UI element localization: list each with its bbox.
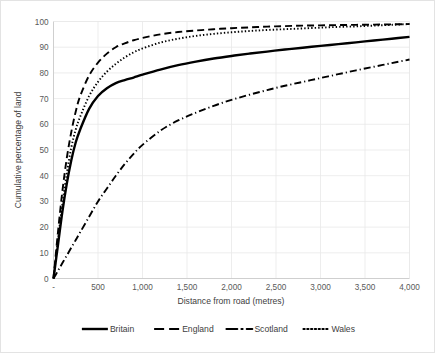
x-axis-tick-label: 2,000 xyxy=(221,283,242,292)
x-axis-tick-label: 3,500 xyxy=(355,283,376,292)
y-axis-tick-label: 30 xyxy=(39,197,49,206)
y-axis-tick-label: 50 xyxy=(39,146,49,155)
x-axis-tick-label: 4,000 xyxy=(399,283,420,292)
x-axis-tick-label: 500 xyxy=(91,283,105,292)
y-axis-tick-label: 60 xyxy=(39,120,49,129)
x-axis-tick-label: - xyxy=(52,283,55,292)
chart-container: 0102030405060708090100 -5001,0001,5002,0… xyxy=(0,0,435,353)
x-axis-title: Distance from road (metres) xyxy=(178,296,285,306)
y-axis-tick-label: 10 xyxy=(39,249,49,258)
legend-label-england: England xyxy=(182,324,214,334)
x-axis-tick-label: 1,000 xyxy=(132,283,153,292)
legend-label-wales: Wales xyxy=(331,324,355,334)
chart-legend: BritainEnglandScotlandWales xyxy=(82,324,355,334)
y-axis-tick-label: 80 xyxy=(39,69,49,78)
y-axis-tick-label: 40 xyxy=(39,172,49,181)
y-axis-tick-label: 20 xyxy=(39,223,49,232)
y-axis-tick-label: 0 xyxy=(44,275,49,284)
x-axis-tick-label: 3,000 xyxy=(310,283,331,292)
y-axis-tick-labels: 0102030405060708090100 xyxy=(35,18,49,284)
legend-label-scotland: Scotland xyxy=(254,324,288,334)
x-axis-tick-labels: -5001,0001,5002,0002,5003,0003,5004,000 xyxy=(52,283,420,292)
cumulative-distance-line-chart: 0102030405060708090100 -5001,0001,5002,0… xyxy=(1,1,435,353)
y-axis-tick-label: 100 xyxy=(35,18,49,27)
x-axis-tick-label: 1,500 xyxy=(177,283,198,292)
legend-label-britain: Britain xyxy=(110,324,135,334)
y-axis-tick-label: 70 xyxy=(39,95,49,104)
y-axis-tick-label: 90 xyxy=(39,43,49,52)
y-axis-title: Cumulative percentage of land xyxy=(13,92,23,209)
x-axis-tick-label: 2,500 xyxy=(266,283,287,292)
